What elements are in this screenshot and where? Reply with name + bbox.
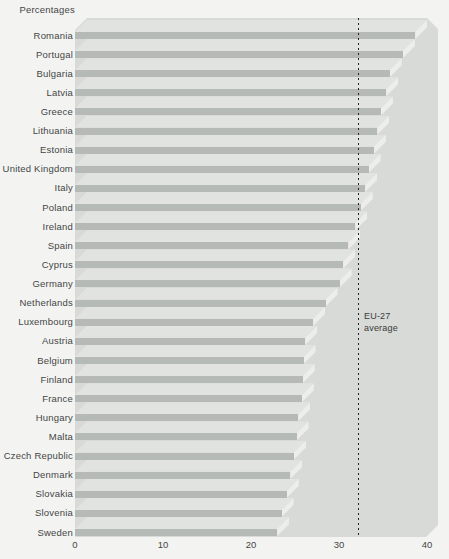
bar-chart: Percentages RomaniaPortugalBulgariaLatvi…: [0, 0, 449, 559]
x-tick-label-0: 0: [60, 539, 90, 550]
x-tick-label-40: 40: [412, 539, 442, 550]
x-axis: 010203040: [0, 0, 449, 559]
x-tick-label-20: 20: [236, 539, 266, 550]
x-tick-label-30: 30: [324, 539, 354, 550]
x-tick-label-10: 10: [148, 539, 178, 550]
